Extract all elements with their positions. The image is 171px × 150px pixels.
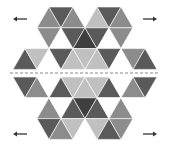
arrow-top-left-icon	[13, 17, 27, 22]
hexagon-figure	[0, 0, 171, 150]
top-half	[13, 7, 157, 69]
arrow-bottom-left-icon	[13, 132, 27, 137]
arrow-bottom-right-icon	[143, 132, 157, 137]
figure-canvas	[0, 0, 171, 150]
arrow-top-right-icon	[143, 17, 157, 22]
bottom-half	[13, 77, 157, 139]
